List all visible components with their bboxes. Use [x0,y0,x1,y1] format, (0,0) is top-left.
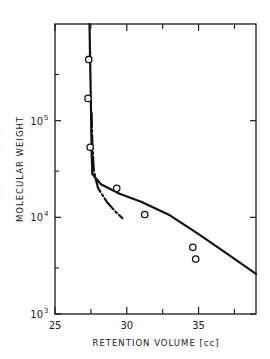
data-point-circle [142,211,148,217]
data-point-circle [85,95,91,101]
y-axis-label: MOLECULAR WEIGHT [15,116,25,222]
x-tick-label: 25 [49,320,62,331]
y-tick-exponent: 4 [44,210,49,218]
solid-curve [90,24,257,274]
y-tick-label: 10 [30,309,43,320]
y-tick-label: 10 [30,212,43,223]
y-axis-ticks: 103104105 [30,75,256,320]
x-axis-label: RETENTION VOLUME [cc] [93,338,220,348]
data-point-circle [87,144,93,150]
data-point-circle [193,256,199,262]
x-tick-label: 35 [192,320,205,331]
data-point-circle [190,244,196,250]
dash-dot-curve [92,113,123,218]
data-point-circle [86,56,92,62]
plot-frame [55,24,256,314]
data-point-circle [114,185,120,191]
retention-volume-chart: 253035 103104105 RETENTION VOLUME [cc] M… [0,0,270,359]
data-points [85,56,199,262]
curves [90,24,257,274]
y-tick-label: 10 [30,116,43,127]
y-tick-exponent: 3 [44,307,48,315]
x-axis-ticks: 253035 [49,24,235,331]
x-tick-label: 30 [120,320,133,331]
y-tick-exponent: 5 [44,114,48,122]
